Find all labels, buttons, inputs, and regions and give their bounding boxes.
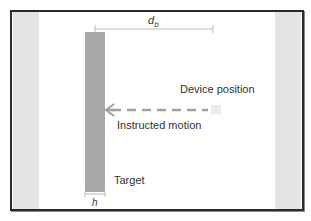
target-label: Target — [114, 174, 145, 186]
diagram-annotations — [0, 0, 311, 221]
instructed-motion-label: Instructed motion — [117, 119, 201, 131]
device-position-marker — [211, 105, 221, 114]
device-position-label: Device position — [180, 83, 255, 95]
instructed-motion-arrow — [106, 104, 208, 116]
width-label: h — [92, 197, 98, 208]
distance-label: db — [148, 14, 159, 29]
